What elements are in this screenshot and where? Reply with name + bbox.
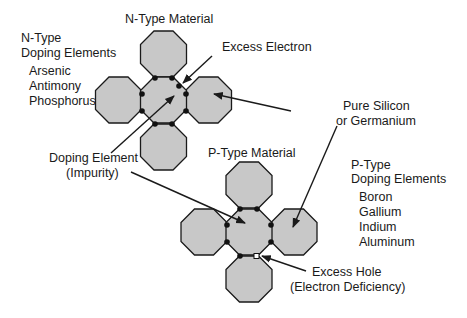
pure-silicon-label-line1: Pure Silicon	[343, 99, 410, 114]
p-type-title: P-Type Material	[208, 146, 296, 161]
atom-right	[186, 77, 232, 123]
excess-electron-label: Excess Electron	[222, 40, 312, 55]
atom-center-dopant	[226, 209, 272, 255]
n-type-element-phosphorus: Phosphorus	[29, 94, 96, 109]
excess-electron-dot	[176, 83, 182, 89]
atom-left	[96, 77, 142, 123]
p-type-element-indium: Indium	[359, 220, 397, 235]
excess-hole-marker	[254, 254, 259, 259]
doping-element-label-line1: Doping Element	[49, 151, 138, 166]
atom-bottom	[226, 256, 272, 302]
p-type-element-boron: Boron	[359, 190, 392, 205]
pure-silicon-label-line2: or Germanium	[336, 114, 416, 129]
atom-top	[141, 31, 187, 77]
p-type-heading-line2: Doping Elements	[351, 172, 446, 187]
atom-right	[271, 209, 317, 255]
n-type-title: N-Type Material	[125, 12, 213, 27]
atom-top	[226, 162, 272, 208]
n-type-heading-line1: N-Type	[21, 31, 61, 46]
pure-silicon-arrow-p	[293, 126, 337, 227]
atom-bottom	[141, 124, 187, 170]
p-type-element-gallium: Gallium	[359, 205, 401, 220]
n-type-element-arsenic: Arsenic	[29, 64, 71, 79]
n-type-heading-line2: Doping Elements	[21, 46, 116, 61]
excess-hole-label-line1: Excess Hole	[312, 265, 381, 280]
atom-left	[181, 209, 227, 255]
n-type-element-antimony: Antimony	[29, 79, 81, 94]
p-type-heading-line1: P-Type	[351, 158, 391, 173]
excess-hole-label-line2: (Electron Deficiency)	[290, 280, 405, 295]
p-type-element-aluminum: Aluminum	[359, 235, 415, 250]
doping-element-label-line2: (Impurity)	[66, 166, 119, 181]
